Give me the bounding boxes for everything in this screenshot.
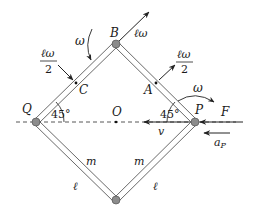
rotation-arrow-right [178,96,214,102]
length-label-right: ℓ [153,180,158,193]
angle-label-left: 45° [51,108,71,121]
label-A: A [143,83,153,97]
rotation-arrow-left [88,29,92,60]
accel-label-sub: P [220,141,227,150]
velocity-label-A-den: 2 [181,63,188,76]
velocity-label-C-num: ℓω [41,47,55,60]
label-C: C [79,83,88,97]
point-O-marker [115,121,118,124]
accel-label: aP [214,136,227,150]
label-Q: Q [22,102,32,116]
velocity-label-C-den: 2 [45,63,52,76]
joint-P [191,118,199,126]
mass-label-left: m [86,155,96,168]
velocity-arrow-C [58,65,73,80]
length-label-left: ℓ [73,180,78,193]
omega-label-right: ω [193,81,203,95]
point-A-marker [155,82,158,85]
label-O: O [112,105,122,119]
velocity-label-A-num: ℓω [177,48,191,61]
velocity-label-P: v [158,125,165,138]
diagram-canvas: B C A Q O P 45° 45° ℓω ℓω 2 ℓω 2 ω ω v F… [0,0,254,213]
velocity-label-B: ℓω [134,27,148,40]
omega-label-left: ω [75,34,85,48]
joint-Q [32,118,40,126]
angle-label-right: 45° [160,108,180,121]
joint-bottom [112,196,120,204]
point-C-marker [75,82,78,85]
label-P: P [194,103,204,117]
mass-label-right: m [134,155,144,168]
joint-B [112,40,120,48]
velocity-arrow-A [159,65,175,80]
label-B: B [109,26,119,40]
force-label-F: F [220,105,230,119]
